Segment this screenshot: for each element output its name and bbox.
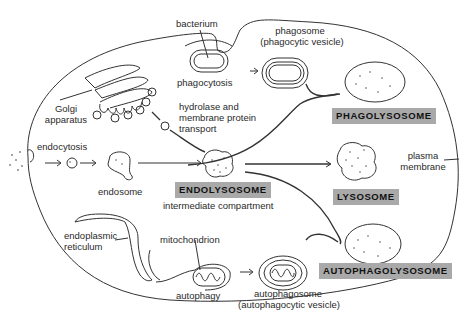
label-reticulum: reticulum [64, 241, 103, 252]
label-transport: transport [179, 123, 217, 134]
bacterium-shape [190, 50, 228, 72]
label-autophagosome: autophagosome [252, 288, 324, 299]
label-bacterium: bacterium [176, 18, 218, 29]
mitochondrion-shape [193, 268, 225, 286]
endosome-shape [108, 152, 132, 180]
label-golgi: Golgi [46, 103, 86, 114]
label-endosome: endosome [98, 186, 142, 197]
label-golgi-apparatus: apparatus [44, 114, 88, 125]
label-membrane-protein: membrane protein [179, 112, 256, 123]
endolysosome-shape [203, 150, 233, 177]
label-autophagy: autophagy [176, 290, 220, 301]
label-intermediate-compartment: intermediate compartment [163, 200, 273, 211]
label-phagolysosome: PHAGOLYSOSOME [332, 108, 436, 124]
label-membrane: membrane [398, 161, 448, 172]
label-phagocytosis: phagocytosis [177, 77, 232, 88]
label-phagosome: phagosome [260, 25, 340, 36]
lysosome-shape [337, 143, 376, 181]
lysosome-pathways-diagram: bacterium phagocytosis phagosome (phagoc… [0, 0, 474, 325]
label-plasma: plasma [400, 150, 446, 161]
autophagosome-shape [259, 256, 307, 290]
label-endocytosis: endocytosis [37, 141, 87, 152]
label-phagosome-sub: (phagocytic vesicle) [250, 36, 354, 47]
label-endoplasmic: endoplasmic [64, 230, 117, 241]
label-hydrolase: hydrolase and [179, 101, 239, 112]
autophagolysosome-shape [345, 224, 401, 264]
label-autophagolysosome: AUTOPHAGOLYSOSOME [319, 263, 452, 279]
phagolysosome-shape [345, 62, 405, 102]
label-endolysosome: ENDOLYSOSOME [175, 182, 271, 198]
label-mitochondrion: mitochondrion [160, 234, 220, 245]
endocytic-vesicle [67, 158, 77, 168]
label-lysosome: LYSOSOME [333, 189, 399, 205]
label-autophagosome-sub: (autophagocytic vesicle) [236, 299, 342, 310]
